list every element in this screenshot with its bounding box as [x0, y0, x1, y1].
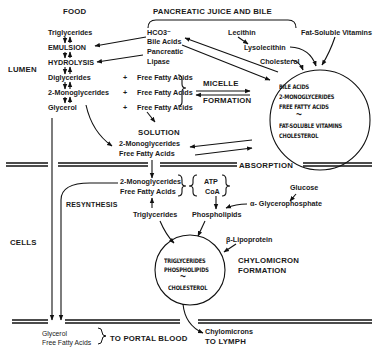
diglycerides-label: Diglycerides	[48, 74, 91, 82]
glycerol-label: Glycerol	[48, 104, 77, 112]
diagram-lines	[0, 0, 378, 354]
lumen-label: LUMEN	[8, 66, 37, 74]
free-fatty-acids-label: Free Fatty Acids	[137, 74, 193, 82]
pancreatic-label: Pancreatic	[147, 48, 183, 56]
chylomicron-triglycerides: TRIGLYCERIDES	[164, 257, 206, 265]
chylomicron-tilde: ~	[180, 273, 186, 281]
plus-sign: +	[123, 104, 127, 112]
formation-label: FORMATION	[203, 97, 251, 105]
absorbed-free-fatty-acids: Free Fatty Acids	[120, 188, 176, 196]
micelle-label: MICELLE	[203, 80, 239, 88]
lymph-label: TO LYMPH	[205, 338, 246, 346]
food-triglycerides: Triglycerides	[48, 29, 92, 37]
chylomicron-label: CHYLOMICRON	[238, 257, 299, 265]
absorption-label: ABSORPTION	[239, 162, 293, 170]
chylomicron-formation-label: FORMATION	[238, 267, 286, 275]
plus-sign: +	[123, 74, 127, 82]
micelle-vitamins: FAT-SOLUBLE VITAMINS	[279, 122, 342, 130]
cholesterol-label: Cholesterol	[260, 58, 300, 66]
portal-blood-label: TO PORTAL BLOOD	[110, 335, 188, 343]
chylomicron-cholesterol: CHOLESTEROL	[168, 284, 207, 292]
emulsion-label: EMULSION	[48, 44, 86, 52]
plus-sign: +	[123, 89, 127, 97]
lysolecithin-label: Lysolecithin	[244, 44, 286, 52]
beta-lipoprotein-label: β-Lipoprotein	[226, 236, 272, 244]
lipase-label: Lipase	[147, 58, 170, 66]
coa-label: CoA	[205, 188, 220, 196]
chylomicron-phospholipids: PHOSPHOLIPIDS	[164, 266, 209, 274]
cells-label: CELLS	[10, 239, 37, 247]
absorbed-monoglycerides: 2-Monoglycerides	[120, 178, 181, 186]
micelle-cholesterol: CHOLESTEROL	[279, 132, 318, 140]
micelle-tilde: ~	[296, 111, 302, 119]
solution-free-fatty-acids: Free Fatty Acids	[119, 150, 175, 158]
portal-free-fatty-acids: Free Fatty Acids	[42, 339, 91, 347]
pancreatic-juice-header: PANCREATIC JUICE AND BILE	[153, 8, 272, 16]
glycerophosphate-label: α- Glycerophosphate	[250, 200, 322, 208]
lecithin-label: Lecithin	[228, 29, 256, 37]
micelle-monoglycerides: 2-MONOGLYCERIDES	[279, 93, 334, 101]
monoglycerides-label: 2-Monoglycerides	[48, 89, 109, 97]
atp-label: ATP	[204, 178, 218, 186]
free-fatty-acids-label: Free Fatty Acids	[137, 104, 193, 112]
micelle-bile-acids: BILE ACIDS	[279, 83, 309, 91]
bile-acids-label: Bile Acids	[147, 38, 181, 46]
solution-label: SOLUTION	[138, 129, 180, 137]
food-header: FOOD	[63, 8, 86, 16]
chylomicrons-label: Chylomicrons	[205, 328, 253, 336]
resynthesis-label: RESYNTHESIS	[66, 201, 118, 209]
fat-soluble-vitamins-label: Fat-Soluble Vitamins	[301, 29, 372, 37]
solution-monoglycerides: 2-Monoglycerides	[119, 140, 180, 148]
free-fatty-acids-label: Free Fatty Acids	[137, 89, 193, 97]
triglycerides-label: Triglycerides	[133, 211, 177, 219]
glucose-label: Glucose	[290, 184, 318, 192]
hydrolysis-label: HYDROLYSIS	[48, 59, 94, 67]
portal-glycerol: Glycerol	[42, 330, 67, 338]
phospholipids-label: Phospholipids	[192, 211, 242, 219]
bicarbonate-label: HCO3⁻	[147, 29, 171, 37]
micelle-free-fatty-acids: FREE FATTY ACIDS	[279, 103, 329, 111]
